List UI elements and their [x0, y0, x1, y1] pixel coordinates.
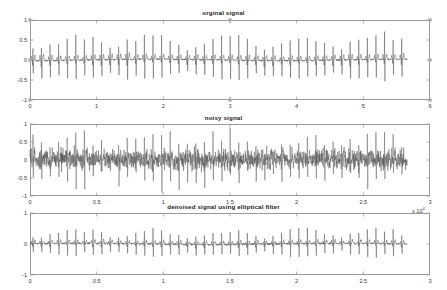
y-tick-label: 1 [6, 210, 27, 216]
y-tick-label: 1 [6, 17, 27, 23]
y-tick-label: 0 [6, 157, 27, 163]
x-tick-label: 1.5 [226, 278, 234, 284]
signal-trace-denoised [0, 198, 447, 290]
plot-panel-denoised: denoised signal using elliptical filter … [0, 198, 447, 290]
axes-resize-handle[interactable] [229, 99, 232, 102]
x-tick-label: 1 [162, 278, 165, 284]
y-tick-label: 0 [6, 241, 27, 247]
axes-resize-handle[interactable] [29, 19, 32, 22]
signal-trace-noisy [0, 108, 447, 203]
y-tick-label: 0.5 [6, 37, 27, 43]
x-tick-label: 2.5 [359, 278, 367, 284]
signal-path [30, 128, 407, 193]
x-tick-label: 2 [295, 278, 298, 284]
y-tick-label: 1 [6, 121, 27, 127]
plot-panel-original: orginal signal 10.50-0.5-10123456 [0, 0, 447, 108]
y-tick-label: -1 [6, 97, 27, 103]
axes-resize-handle[interactable] [429, 59, 432, 62]
axes-resize-handle[interactable] [229, 19, 232, 22]
x-tick-label: 3 [428, 278, 431, 284]
y-tick-label: -1 [6, 272, 27, 278]
y-tick-label: 0 [6, 57, 27, 63]
figure-canvas: orginal signal 10.50-0.5-10123456 noisy … [0, 0, 447, 290]
y-tick-label: -0.5 [6, 175, 27, 181]
signal-path [30, 32, 407, 82]
signal-trace-original [0, 0, 447, 108]
signal-path [30, 228, 407, 258]
plot-panel-noisy: noisy signal 10.50-0.5-100.511.522.53x 1… [0, 108, 447, 203]
x-tick-label: 0 [28, 278, 31, 284]
axes-resize-handle[interactable] [29, 59, 32, 62]
y-tick-label: -0.5 [6, 77, 27, 83]
axes-resize-handle[interactable] [429, 99, 432, 102]
x-tick-label: 0.5 [93, 278, 101, 284]
axes-resize-handle[interactable] [29, 99, 32, 102]
axes-resize-handle[interactable] [429, 19, 432, 22]
y-tick-label: 0.5 [6, 139, 27, 145]
